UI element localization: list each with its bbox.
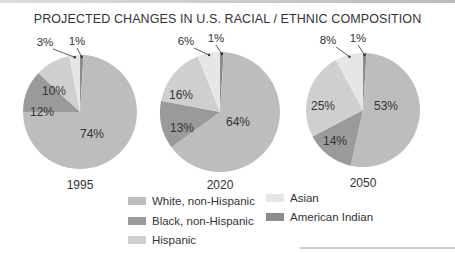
legend-swatch-hispanic — [128, 236, 146, 244]
legend-label-white: White, non-Hispanic — [152, 195, 255, 207]
leader-arrow-asian-2050 — [336, 47, 349, 57]
legend-swatch-black — [128, 217, 146, 225]
arrow-head-icon — [208, 54, 210, 56]
data-label-2050-0: 53% — [374, 99, 398, 113]
data-label-2020-0: 64% — [226, 115, 250, 129]
data-label-1995-2: 10% — [42, 84, 66, 98]
year-label-1995: 1995 — [67, 178, 94, 192]
arrow-head-icon — [81, 56, 83, 58]
arrow-head-icon — [364, 54, 366, 56]
arrow-head-icon — [348, 55, 350, 57]
data-label-1995-asian: 3% — [37, 36, 54, 48]
data-label-2020-american-indian: 1% — [208, 32, 225, 44]
data-label-1995-american-indian: 1% — [69, 35, 86, 47]
arrow-head-icon — [221, 53, 223, 55]
data-label-2050-asian: 8% — [320, 34, 337, 46]
pie-2050: 53%14%25%8%1%2050 — [306, 32, 420, 190]
legend-item-white: White, non-Hispanic — [128, 195, 255, 207]
leader-arrow-asian-2020 — [194, 48, 209, 55]
leader-arrow-asian-1995 — [53, 49, 75, 57]
arrow-head-icon — [74, 56, 76, 58]
data-label-1995-0: 74% — [80, 127, 104, 141]
legend-item-american-indian: American Indian — [266, 211, 373, 223]
data-label-2020-asian: 6% — [178, 35, 195, 47]
legend-swatch-white — [128, 197, 146, 205]
pie-2020: 64%13%16%6%1%2020 — [160, 32, 280, 192]
legend-label-black: Black, non-Hispanic — [152, 215, 254, 227]
data-label-2050-2: 25% — [311, 99, 335, 113]
legend-item-hispanic: Hispanic — [128, 234, 196, 246]
data-label-2020-2: 16% — [169, 88, 193, 102]
legend-label-american-indian: American Indian — [290, 211, 373, 223]
legend-label-asian: Asian — [290, 192, 319, 204]
data-label-2050-american-indian: 1% — [350, 32, 367, 44]
bottom-border — [300, 247, 455, 249]
data-label-2050-1: 14% — [323, 134, 347, 148]
legend-item-black: Black, non-Hispanic — [128, 215, 254, 227]
pie-1995: 74%12%10%3%1%1995 — [23, 35, 137, 192]
data-label-2020-1: 13% — [170, 121, 194, 135]
legend-label-hispanic: Hispanic — [152, 234, 196, 246]
legend-swatch-american-indian — [266, 213, 284, 221]
legend-swatch-asian — [266, 194, 284, 202]
data-label-1995-1: 12% — [30, 105, 54, 119]
year-label-2050: 2050 — [350, 176, 377, 190]
legend-item-asian: Asian — [266, 192, 319, 204]
year-label-2020: 2020 — [207, 178, 234, 192]
